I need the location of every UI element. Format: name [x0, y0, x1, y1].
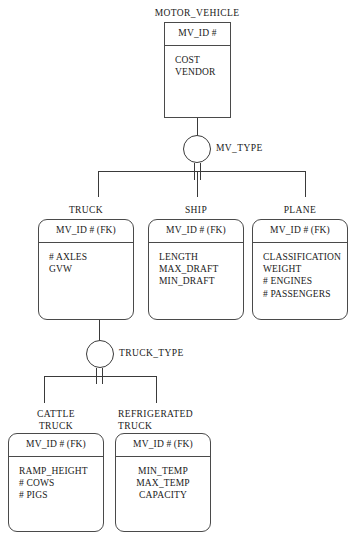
attribute: MAX_DRAFT [159, 263, 243, 275]
entity-key-cattle-truck: MV_ID # (FK) [9, 434, 103, 457]
entity-caption-ship: SHIP [148, 205, 244, 217]
attribute: # COWS [19, 477, 103, 489]
entity-caption-motor-vehicle: MOTOR_VEHICLE [142, 8, 252, 20]
attribute: MAX_TEMP [116, 477, 210, 489]
entity-caption-line-1: CATTLE [8, 409, 104, 421]
discriminator-circle-mv-type[interactable] [183, 135, 211, 163]
attribute: CAPACITY [116, 489, 210, 501]
entity-caption-plane: PLANE [252, 205, 348, 217]
attribute: WEIGHT [263, 263, 347, 275]
entity-attributes-plane: CLASSIFICATION WEIGHT # ENGINES # PASSEN… [253, 243, 347, 300]
discriminator-label-mv-type: MV_TYPE [216, 143, 263, 153]
attribute: # PASSENGERS [263, 288, 347, 300]
entity-key-truck: MV_ID # (FK) [39, 220, 133, 243]
attribute: GVW [49, 263, 133, 275]
entity-attributes-motor-vehicle: COST VENDOR [165, 46, 230, 78]
entity-caption-line-1: REFRIGERATED [118, 409, 228, 421]
subtype-bus-truck-type [44, 376, 157, 377]
attribute: VENDOR [175, 66, 230, 78]
subtype-drop-refrigerated-truck [156, 376, 157, 403]
attribute: MIN_DRAFT [159, 275, 243, 287]
attribute: RAMP_HEIGHT [19, 465, 103, 477]
entity-key-refrigerated-truck: MV_ID # (FK) [116, 434, 210, 457]
attribute: LENGTH [159, 251, 243, 263]
subtype-drop-ship [197, 171, 198, 197]
entity-ship[interactable]: MV_ID # (FK) LENGTH MAX_DRAFT MIN_DRAFT [148, 219, 244, 320]
entity-attributes-cattle-truck: RAMP_HEIGHT # COWS # PIGS [9, 457, 103, 502]
entity-cattle-truck[interactable]: MV_ID # (FK) RAMP_HEIGHT # COWS # PIGS [8, 433, 104, 532]
entity-key-plane: MV_ID # (FK) [253, 220, 347, 243]
entity-caption-line-2: TRUCK [8, 421, 104, 433]
attribute: # PIGS [19, 489, 103, 501]
entity-attributes-ship: LENGTH MAX_DRAFT MIN_DRAFT [149, 243, 243, 288]
subtype-drop-truck [98, 171, 99, 197]
attribute: COST [175, 54, 230, 66]
entity-motor-vehicle[interactable]: MV_ID # COST VENDOR [164, 22, 231, 118]
entity-caption-line-2: TRUCK [118, 421, 228, 433]
entity-caption-truck: TRUCK [38, 205, 134, 217]
subtype-bus-mv-type [98, 171, 306, 172]
discriminator-circle-truck-type[interactable] [86, 340, 114, 368]
connector-truck-to-truck-type [99, 320, 100, 342]
entity-caption-cattle-truck: CATTLE TRUCK [8, 409, 104, 432]
entity-attributes-truck: # AXLES GVW [39, 243, 133, 275]
er-diagram-canvas: MOTOR_VEHICLE MV_ID # COST VENDOR MV_TYP… [0, 0, 357, 543]
subtype-drop-plane [305, 171, 306, 197]
entity-truck[interactable]: MV_ID # (FK) # AXLES GVW [38, 219, 134, 320]
subtype-drop-cattle-truck [44, 376, 45, 403]
attribute: CLASSIFICATION [263, 251, 347, 263]
entity-refrigerated-truck[interactable]: MV_ID # (FK) MIN_TEMP MAX_TEMP CAPACITY [115, 433, 211, 532]
entity-attributes-refrigerated-truck: MIN_TEMP MAX_TEMP CAPACITY [116, 457, 210, 502]
entity-key-motor-vehicle: MV_ID # [165, 23, 230, 46]
entity-key-ship: MV_ID # (FK) [149, 220, 243, 243]
entity-caption-refrigerated-truck: REFRIGERATED TRUCK [118, 409, 228, 432]
attribute: # ENGINES [263, 275, 347, 287]
attribute: MIN_TEMP [116, 465, 210, 477]
attribute: # AXLES [49, 251, 133, 263]
discriminator-label-truck-type: TRUCK_TYPE [119, 348, 184, 358]
entity-plane[interactable]: MV_ID # (FK) CLASSIFICATION WEIGHT # ENG… [252, 219, 348, 320]
